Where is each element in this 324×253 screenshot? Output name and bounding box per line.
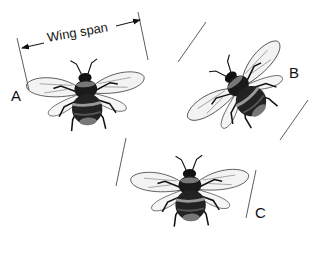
bee-label-c: C: [255, 204, 266, 221]
wingspan-arrow-left: [22, 43, 44, 48]
bee-label-b: B: [289, 64, 299, 81]
wingspan-marker-left-c: [116, 138, 126, 186]
bee-a: Wing span A: [11, 12, 148, 134]
bee-b: B: [174, 22, 310, 155]
wingspan-marker-right-b: [280, 100, 308, 140]
wingspan-marker-right-a: [138, 12, 148, 60]
wingspan-marker-left-b: [178, 22, 206, 62]
wingspan-label: Wing span: [46, 20, 109, 45]
bee-wingspan-diagram: Wing span A B C: [0, 0, 324, 253]
bee-label-a: A: [11, 87, 21, 104]
wingspan-arrow-right: [116, 20, 140, 26]
wingspan-marker-left-a: [17, 38, 29, 90]
bee-c: C: [116, 138, 266, 228]
